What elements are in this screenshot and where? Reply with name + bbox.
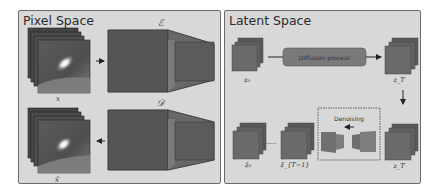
zT-bottom-latent-stack bbox=[385, 124, 418, 160]
zT-top-latent-stack bbox=[385, 38, 418, 74]
encoder-block bbox=[108, 30, 214, 92]
zhat0-label: ẑ₀ bbox=[244, 161, 251, 169]
decoder-label: 𝒟 bbox=[157, 98, 166, 108]
encoder-label: ℰ bbox=[158, 18, 165, 28]
diffusion-label: Diffusion process bbox=[299, 54, 350, 62]
zhat-T-minus-1-label: ẑ_{T−1} bbox=[280, 161, 310, 169]
output-image-stack bbox=[28, 108, 90, 173]
zT-top-label: z_T bbox=[392, 76, 405, 84]
z0-label: z₀ bbox=[243, 76, 250, 84]
zhat-T-minus-1-stack bbox=[281, 123, 314, 159]
diagram-canvas: x ℰ x̃ 𝒟 z₀ Dif bbox=[0, 0, 436, 196]
zT-bottom-label: z_T bbox=[392, 162, 405, 170]
z0-latent-stack bbox=[232, 38, 263, 71]
denoising-label: Denoising bbox=[334, 115, 364, 123]
input-image-stack bbox=[28, 28, 90, 93]
zhat0-latent-stack bbox=[233, 123, 266, 159]
decoder-block bbox=[108, 110, 214, 170]
output-label: x̃ bbox=[55, 176, 59, 184]
input-label: x bbox=[56, 95, 60, 103]
ellipsis: ..... bbox=[265, 138, 276, 146]
